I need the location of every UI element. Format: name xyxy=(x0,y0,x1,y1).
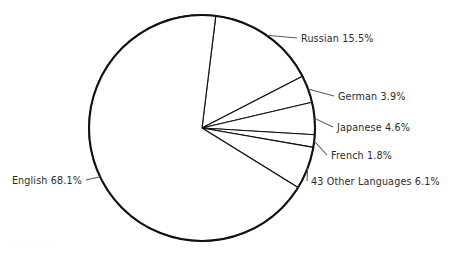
slice-label-german: German 3.9% xyxy=(338,91,406,102)
pie-chart-figure: English 68.1% Russian 15.5% German 3.9% … xyxy=(0,0,452,254)
leader-line-43-other-languages xyxy=(307,168,308,181)
pie-slices-group xyxy=(89,15,315,241)
corner-artifact xyxy=(9,241,55,246)
slice-label-other-languages: 43 Other Languages 6.1% xyxy=(311,176,440,187)
leader-line-japanese xyxy=(315,118,333,127)
leader-line-english xyxy=(86,177,100,180)
pie-chart-canvas: English 68.1% Russian 15.5% German 3.9% … xyxy=(0,0,452,254)
slice-label-french: French 1.8% xyxy=(331,150,392,161)
leader-line-german xyxy=(308,89,334,96)
leader-line-french xyxy=(314,141,327,155)
slice-label-english: English 68.1% xyxy=(12,175,82,186)
slice-label-japanese: Japanese 4.6% xyxy=(336,122,410,133)
slice-label-russian: Russian 15.5% xyxy=(301,33,373,44)
